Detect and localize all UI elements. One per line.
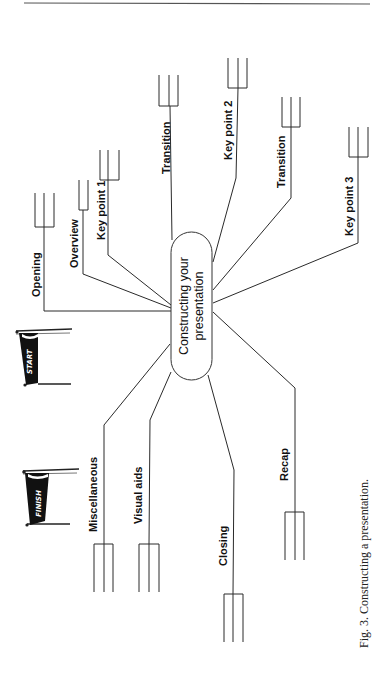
branch-label-overview: Overview <box>68 219 80 268</box>
mind-map-figure: START FINISH Constructing your presentat… <box>0 0 387 685</box>
branch-recap-lines <box>213 312 304 560</box>
branch-label-key-point-3: Key point 3 <box>343 177 355 236</box>
figure-caption: Fig. 3. Constructing a presentation. <box>357 479 372 648</box>
branch-key-point-2-lines <box>213 58 247 262</box>
center-node-line-1: Constructing your <box>177 257 192 355</box>
start-flag-text: START <box>26 348 34 374</box>
branch-label-transition-2: Transition <box>275 135 287 188</box>
branch-label-key-point-1: Key point 1 <box>95 181 107 240</box>
finish-flag-icon: FINISH <box>22 469 79 527</box>
branch-label-miscellaneous: Miscellaneous <box>87 457 99 532</box>
finish-flag-text: FINISH <box>35 490 43 517</box>
center-node-line-2: presentation <box>192 257 207 355</box>
branch-label-transition-1: Transition <box>160 121 172 174</box>
start-flag-icon: START <box>15 329 72 387</box>
branch-overview-lines <box>79 180 171 308</box>
branch-label-recap: Recap <box>278 448 290 481</box>
branch-label-visual-aids: Visual aids <box>132 467 144 524</box>
branch-label-key-point-2: Key point 2 <box>222 101 234 160</box>
center-node-label: Constructing your presentation <box>177 257 207 355</box>
branch-label-opening: Opening <box>30 252 42 297</box>
branch-label-closing: Closing <box>217 526 229 566</box>
top-rule <box>24 3 370 4</box>
branch-closing-lines <box>208 375 243 642</box>
